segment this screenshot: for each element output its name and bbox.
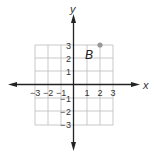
arrow-down-icon (71, 142, 76, 151)
y-tick: 3 (66, 120, 71, 130)
y-tick: 1 (66, 94, 71, 104)
point-b-label: B (85, 48, 93, 62)
y-tick: − (60, 107, 65, 117)
x-tick: −3 (30, 88, 40, 98)
arrow-left-icon (8, 82, 17, 87)
y-tick: 2 (66, 54, 71, 64)
arrow-right-icon (131, 82, 140, 87)
x-tick: −2 (43, 88, 53, 98)
y-axis (71, 14, 76, 151)
y-axis-label: y (69, 3, 77, 15)
x-tick: 3 (111, 88, 116, 98)
x-axis-label: x (142, 79, 149, 91)
x-tick: 1 (85, 88, 90, 98)
point-b (97, 42, 102, 47)
x-tick: 2 (98, 88, 103, 98)
y-tick: 3 (66, 41, 71, 51)
y-tick: 2 (66, 107, 71, 117)
coordinate-plane: y x −3 −2 −1 1 2 3 3 2 1 − 1 − 2 − 3 B (0, 0, 154, 154)
y-tick: − (60, 120, 65, 130)
arrow-up-icon (71, 14, 76, 23)
y-tick: 1 (66, 67, 71, 77)
y-tick-labels: 3 2 1 − 1 − 2 − 3 (60, 41, 71, 130)
y-tick: − (60, 94, 65, 104)
x-tick-labels: −3 −2 −1 1 2 3 (30, 88, 116, 98)
